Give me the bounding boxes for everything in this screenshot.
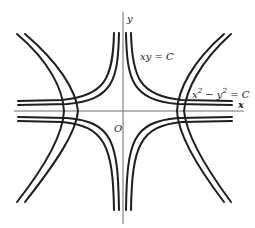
origin-label: O xyxy=(114,124,122,134)
x2-y2-equation-label: x2 − y2 = C xyxy=(192,88,249,100)
y-axis-label: y xyxy=(127,14,133,24)
hyperbola-diagram xyxy=(0,0,255,228)
label-minus-y: − y xyxy=(202,89,222,100)
x-axis-label: x xyxy=(238,100,244,110)
label-eq-c: = C xyxy=(227,89,249,100)
xy-equation-label: xy = C xyxy=(140,52,174,62)
